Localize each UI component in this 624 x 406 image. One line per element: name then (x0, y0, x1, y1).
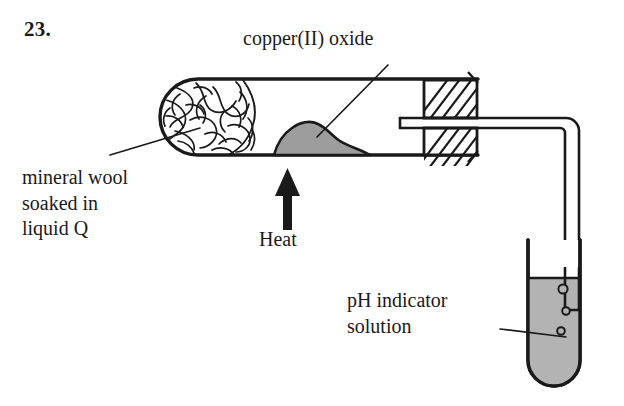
label-copper-oxide: copper(II) oxide (243, 26, 374, 52)
receiving-test-tube (526, 240, 582, 390)
heat-arrow (275, 168, 300, 230)
chemistry-diagram-figure: 23. copper(II) oxide mineral wool soaked… (0, 0, 624, 406)
bubble-1 (558, 284, 567, 293)
bubble-3 (557, 327, 565, 335)
label-mineral-wool: mineral wool soaked in liquid Q (22, 165, 128, 242)
label-heat: Heat (259, 227, 297, 253)
heat-arrow-head (275, 168, 300, 196)
bubble-2 (562, 307, 570, 315)
label-ph-indicator: pH indicator solution (347, 288, 448, 339)
horizontal-test-tube (160, 72, 500, 172)
question-number: 23. (24, 16, 51, 43)
rubber-stopper (414, 72, 500, 172)
